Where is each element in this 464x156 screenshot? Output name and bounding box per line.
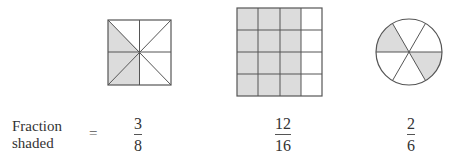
- numerator: 2: [407, 115, 415, 133]
- shaded-part: [376, 23, 409, 52]
- figure-grid-sixteenths: [237, 8, 322, 96]
- row-label-line1: Fraction: [12, 118, 62, 135]
- numerator: 12: [275, 115, 291, 133]
- row-label-line2: shaded: [12, 135, 62, 152]
- denominator: 8: [134, 137, 142, 155]
- fraction-figures: [0, 0, 464, 156]
- fraction-1: 3 8: [134, 115, 142, 155]
- row-label: Fraction shaded: [12, 118, 62, 152]
- fraction-bar: [407, 134, 415, 135]
- equals-sign: =: [89, 125, 97, 142]
- fraction-2: 12 16: [275, 115, 291, 155]
- figure-square-eighths: [108, 20, 171, 85]
- denominator: 16: [275, 137, 291, 155]
- denominator: 6: [407, 137, 415, 155]
- figure-circle-sixths: [376, 19, 442, 85]
- fraction-bar: [275, 134, 291, 135]
- fraction-3: 2 6: [407, 115, 415, 155]
- numerator: 3: [134, 115, 142, 133]
- shaded-part: [409, 52, 442, 81]
- fraction-bar: [134, 134, 142, 135]
